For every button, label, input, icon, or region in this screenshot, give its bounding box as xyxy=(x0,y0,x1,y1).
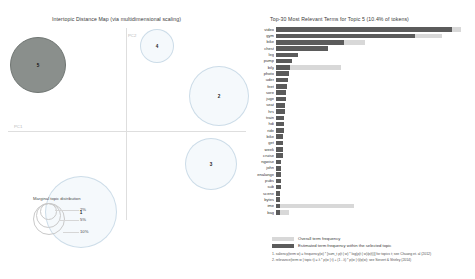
term-label: chest xyxy=(252,46,274,51)
term-row[interactable]: leg xyxy=(252,52,475,57)
term-label: sub xyxy=(252,184,274,189)
bar-selected xyxy=(276,147,283,152)
size-tick-2: 2% xyxy=(80,207,86,212)
bar-selected xyxy=(276,179,281,184)
bar-selected xyxy=(276,153,283,158)
term-row[interactable]: chest xyxy=(252,46,475,51)
bar-selected xyxy=(276,109,285,114)
term-label: hdi xyxy=(252,121,274,126)
topic-bubble-label-5: 5 xyxy=(37,63,40,68)
legend-label-overall: Overall term frequency xyxy=(298,236,340,242)
term-row[interactable]: enalange xyxy=(252,172,475,177)
term-label: seat xyxy=(252,102,274,107)
term-row[interactable]: get xyxy=(252,140,475,145)
bar-selected xyxy=(276,172,281,177)
term-label: juge xyxy=(252,96,274,101)
term-label: cruise xyxy=(252,153,274,158)
bar-selected xyxy=(276,185,281,190)
term-row[interactable]: scene xyxy=(252,191,475,196)
bar-selected xyxy=(276,141,283,146)
bar-selected xyxy=(276,71,289,76)
size-tick-10: 10% xyxy=(80,229,88,234)
bar-selected xyxy=(276,160,281,165)
term-label: photo xyxy=(252,71,274,76)
term-row[interactable]: pump xyxy=(252,59,475,64)
term-row[interactable]: bytes xyxy=(252,197,475,202)
term-label: ime xyxy=(252,203,274,208)
term-row[interactable]: ride xyxy=(252,128,475,133)
legend-title: Marginal topic distribution xyxy=(33,196,80,201)
bar-selected xyxy=(276,128,284,133)
bar-selected xyxy=(276,103,285,108)
term-row[interactable]: feet xyxy=(252,84,475,89)
term-row[interactable]: juge xyxy=(252,96,475,101)
term-row[interactable]: bily xyxy=(252,65,475,70)
term-label: bike xyxy=(252,134,274,139)
topic-bubble-label-3: 3 xyxy=(210,162,213,167)
term-label: john xyxy=(252,165,274,170)
term-label: bily xyxy=(252,65,274,70)
term-label: feet xyxy=(252,84,274,89)
term-row[interactable]: sub xyxy=(252,185,475,190)
term-row[interactable]: video xyxy=(252,27,475,32)
bar-chart-title: Top-30 Most Relevant Terms for Topic 5 (… xyxy=(270,16,409,22)
ldavis-root: Intertopic Distance Map (via multidimens… xyxy=(0,0,475,279)
bar-selected xyxy=(276,166,281,171)
term-row[interactable]: gym xyxy=(252,33,475,38)
term-row[interactable]: train xyxy=(252,115,475,120)
term-row[interactable]: week xyxy=(252,147,475,152)
term-label: pump xyxy=(252,58,274,63)
size-leader-10 xyxy=(63,232,79,233)
term-row[interactable]: sore xyxy=(252,90,475,95)
term-row[interactable]: photo xyxy=(252,71,475,76)
legend-swatch-selected xyxy=(272,244,294,249)
term-row[interactable]: john xyxy=(252,166,475,171)
bar-selected xyxy=(276,116,284,121)
bar-selected xyxy=(276,204,280,209)
term-label: bike xyxy=(252,39,274,44)
term-row[interactable]: hdi xyxy=(252,122,475,127)
intertopic-distance-map-panel: Intertopic Distance Map (via multidimens… xyxy=(0,0,252,279)
bar-selected xyxy=(276,59,292,64)
legend-swatch-overall xyxy=(272,237,294,242)
bar-selected xyxy=(276,65,290,70)
bar-selected xyxy=(276,40,344,45)
top-terms-panel: Top-30 Most Relevant Terms for Topic 5 (… xyxy=(252,0,475,279)
mds-horizontal-axis xyxy=(8,131,246,132)
term-row[interactable]: hrs xyxy=(252,109,475,114)
bar-selected xyxy=(276,34,415,39)
term-row[interactable]: seat xyxy=(252,103,475,108)
bar-selected xyxy=(276,27,452,32)
term-row[interactable]: cruise xyxy=(252,153,475,158)
bar-selected xyxy=(276,90,286,95)
term-label: ngwise xyxy=(252,159,274,164)
term-label: week xyxy=(252,147,274,152)
bar-selected xyxy=(276,122,284,127)
bar-selected xyxy=(276,197,280,202)
bar-selected xyxy=(276,84,287,89)
term-label: enalange xyxy=(252,172,274,177)
size-ring-10 xyxy=(33,203,65,235)
size-leader-5 xyxy=(59,220,79,221)
term-label: bytes xyxy=(252,197,274,202)
legend-label-selected: Estimated term frequency within the sele… xyxy=(298,243,391,249)
term-row[interactable]: bike xyxy=(252,134,475,139)
mds-title: Intertopic Distance Map (via multidimens… xyxy=(52,16,181,22)
bar-selected xyxy=(276,210,280,215)
term-row[interactable]: bike xyxy=(252,40,475,45)
bar-selected xyxy=(276,46,328,51)
term-row[interactable]: pubs xyxy=(252,178,475,183)
term-label: leg xyxy=(252,52,274,57)
term-row[interactable]: uder xyxy=(252,77,475,82)
term-label: bag xyxy=(252,210,274,215)
topic-bubble-label-2: 2 xyxy=(218,94,221,99)
term-label: scene xyxy=(252,191,274,196)
term-row[interactable]: bag xyxy=(252,210,475,215)
size-leader-2 xyxy=(55,210,79,211)
mds-axis-label-pc2: PC2 xyxy=(128,33,136,38)
bar-selected xyxy=(276,97,286,102)
term-row[interactable]: ngwise xyxy=(252,159,475,164)
bar-selected xyxy=(276,53,298,58)
term-row[interactable]: ime xyxy=(252,203,475,208)
term-label: hrs xyxy=(252,109,274,114)
